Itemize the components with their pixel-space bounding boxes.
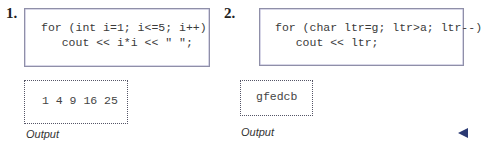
example-1-output-text: 1 4 9 16 25	[42, 94, 118, 107]
left-triangle-icon[interactable]	[458, 128, 468, 138]
example-1-code-line-1: for (int i=1; i<=5; i++)	[41, 20, 207, 35]
example-2-code-line-1: for (char ltr=g; ltr>a; ltr--)	[275, 20, 481, 35]
example-2-code-box: for (char ltr=g; ltr>a; ltr--) cout << l…	[259, 8, 464, 66]
example-1-output-box: 1 4 9 16 25	[24, 80, 128, 124]
example-1-output-caption: Output	[26, 128, 59, 140]
example-2-code-line-2: cout << ltr;	[275, 35, 379, 50]
example-2-output-caption: Output	[241, 126, 274, 138]
example-1-number: 1.	[6, 5, 17, 22]
example-2-output-text: gfedcb	[256, 90, 297, 103]
example-1-code-line-2: cout << i*i << " ";	[41, 35, 193, 50]
example-2-output-box: gfedcb	[240, 80, 313, 116]
example-2-number: 2.	[224, 5, 235, 22]
example-1-code-box: for (int i=1; i<=5; i++) cout << i*i << …	[24, 8, 210, 67]
